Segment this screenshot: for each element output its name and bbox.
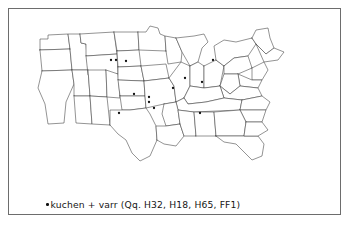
state-arizona [74, 96, 92, 124]
state-minnesota [138, 26, 166, 51]
caption-label: kuchen + varr (Qq. H32, H18, H65, FF1) [51, 200, 241, 209]
state-alabama [194, 112, 216, 136]
map-dot [201, 81, 203, 83]
plate-frame: kuchen + varr (Qq. H32, H18, H65, FF1) [8, 8, 341, 215]
map-dot [153, 107, 155, 109]
state-kansas [118, 80, 145, 96]
map-dot [172, 87, 174, 89]
map-dot [212, 59, 214, 61]
state-washington [40, 34, 70, 50]
state-texas [110, 108, 157, 161]
map-dot [118, 112, 120, 114]
map-dot [148, 101, 150, 103]
map-dot [199, 112, 201, 114]
map-dot [184, 77, 186, 79]
state-new-mexico [90, 96, 110, 125]
map-dot [125, 60, 127, 62]
state-oregon [40, 49, 72, 71]
map-dot [110, 59, 112, 61]
state-indiana [190, 62, 204, 88]
map-area [18, 18, 349, 188]
state-new-england-upper [252, 28, 274, 54]
state-nebraska [118, 66, 144, 81]
state-california [38, 70, 74, 124]
state-louisiana [156, 124, 184, 146]
state-new-jersey-delaware [252, 62, 268, 80]
state-north-dakota [114, 32, 139, 51]
state-florida [216, 136, 264, 160]
state-oklahoma [120, 96, 146, 110]
legend-dot-icon [46, 203, 49, 206]
state-georgia [214, 110, 246, 136]
dialect-map-figure: kuchen + varr (Qq. H32, H18, H65, FF1) [0, 0, 351, 225]
map-dot [148, 96, 150, 98]
state-south-dakota [117, 50, 141, 67]
map-dot [115, 59, 117, 61]
map-dot [133, 93, 135, 95]
map-legend: kuchen + varr (Qq. H32, H18, H65, FF1) [18, 200, 240, 209]
state-florida-panhandle-coast [244, 122, 268, 136]
us-state-outline-map [18, 18, 349, 188]
state-utah [88, 70, 107, 97]
caption-row: kuchen + varr (Qq. H32, H18, H65, FF1) [18, 191, 349, 219]
state-nevada [72, 70, 90, 96]
